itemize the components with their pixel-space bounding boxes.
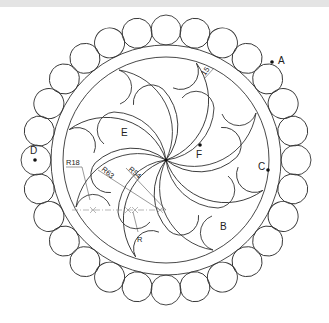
centerline — [72, 207, 168, 213]
point-f — [198, 143, 202, 147]
r54-label: R54 — [127, 165, 143, 181]
construction-drawing: 15 R18 R63 R54 R A B C D E F — [0, 0, 329, 323]
label-c: C — [258, 161, 265, 172]
r-label: R — [137, 235, 143, 244]
label-e: E — [121, 127, 128, 138]
r63-label: R63 — [100, 165, 116, 181]
r18-label: R18 — [66, 158, 80, 167]
label-f: F — [196, 149, 202, 160]
label-a: A — [278, 55, 285, 66]
point-a — [270, 60, 274, 64]
point-d — [33, 158, 37, 162]
label-b: B — [220, 221, 227, 232]
point-c — [266, 168, 270, 172]
label-d: D — [30, 145, 37, 156]
center-point — [164, 158, 167, 161]
